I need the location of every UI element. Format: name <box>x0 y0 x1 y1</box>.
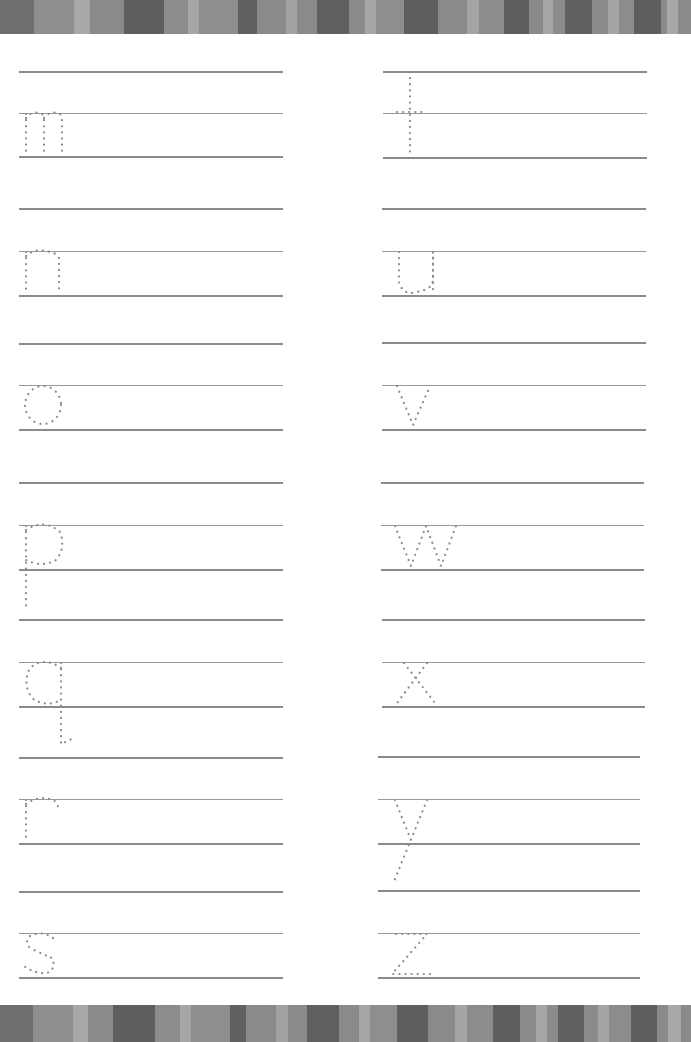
stripe-segment <box>668 1005 681 1042</box>
dotted-letter-t <box>397 72 424 155</box>
stripe-segment <box>180 1005 191 1042</box>
dotted-letter-z <box>392 934 430 974</box>
stripe-segment <box>88 1005 113 1042</box>
stripe-segment <box>359 1005 370 1042</box>
stripe-segment <box>609 1005 631 1042</box>
stripe-segment <box>547 1005 558 1042</box>
dotted-letter-x <box>397 663 435 703</box>
stripe-segment <box>536 1005 547 1042</box>
stripe-segment <box>0 1005 33 1042</box>
stripe-segment <box>191 1005 230 1042</box>
dotted-letter-o <box>25 386 61 424</box>
stripe-segment <box>288 1005 307 1042</box>
stripe-segment <box>520 1005 536 1042</box>
dotted-letter-u <box>399 252 433 293</box>
dotted-letter-m <box>26 113 62 155</box>
stripe-segment <box>467 1005 493 1042</box>
dotted-letter-q <box>26 662 74 744</box>
stripe-segment <box>339 1005 359 1042</box>
stripe-segment <box>246 1005 276 1042</box>
dotted-letter-p <box>26 524 62 610</box>
dotted-letter-w <box>395 526 456 566</box>
stripe-segment <box>307 1005 339 1042</box>
stripe-segment <box>584 1005 598 1042</box>
stripe-segment <box>230 1005 247 1042</box>
dotted-letter-r <box>26 798 59 840</box>
dotted-letter-s <box>24 933 54 973</box>
bottom-decorative-stripe-border <box>0 1005 691 1042</box>
stripe-segment <box>598 1005 609 1042</box>
dotted-letter-v <box>397 386 430 425</box>
dotted-tracing-letters <box>0 0 691 1042</box>
dotted-letter-y <box>393 800 427 884</box>
stripe-segment <box>455 1005 467 1042</box>
stripe-segment <box>657 1005 668 1042</box>
stripe-segment <box>155 1005 180 1042</box>
stripe-segment <box>113 1005 155 1042</box>
stripe-segment <box>681 1005 691 1042</box>
stripe-segment <box>397 1005 429 1042</box>
stripe-segment <box>428 1005 455 1042</box>
stripe-segment <box>73 1005 89 1042</box>
stripe-segment <box>276 1005 288 1042</box>
dotted-letter-n <box>26 250 59 294</box>
stripe-segment <box>33 1005 73 1042</box>
stripe-segment <box>370 1005 397 1042</box>
stripe-segment <box>558 1005 585 1042</box>
stripe-segment <box>493 1005 520 1042</box>
stripe-segment <box>631 1005 657 1042</box>
